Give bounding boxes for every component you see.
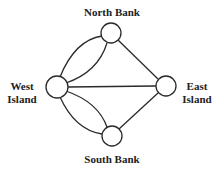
label-south-bank: South Bank [70, 153, 154, 166]
edge-west-south-outer [60, 97, 102, 134]
edge-south-east [119, 93, 158, 129]
label-west-island: West Island [2, 80, 42, 106]
node-south [102, 126, 122, 146]
edge-north-east [118, 40, 158, 79]
edge-west-south-inner [66, 91, 107, 127]
label-north-bank: North Bank [70, 6, 154, 19]
node-east [156, 76, 176, 96]
edge-west-east [68, 86, 156, 87]
label-east-island: East Island [177, 80, 217, 106]
edge-west-north-outer [60, 36, 102, 77]
graph-diagram: North Bank West Island East Island South… [0, 0, 218, 170]
edge-west-north-inner [66, 43, 107, 83]
node-west [46, 76, 68, 98]
node-north [101, 23, 121, 43]
